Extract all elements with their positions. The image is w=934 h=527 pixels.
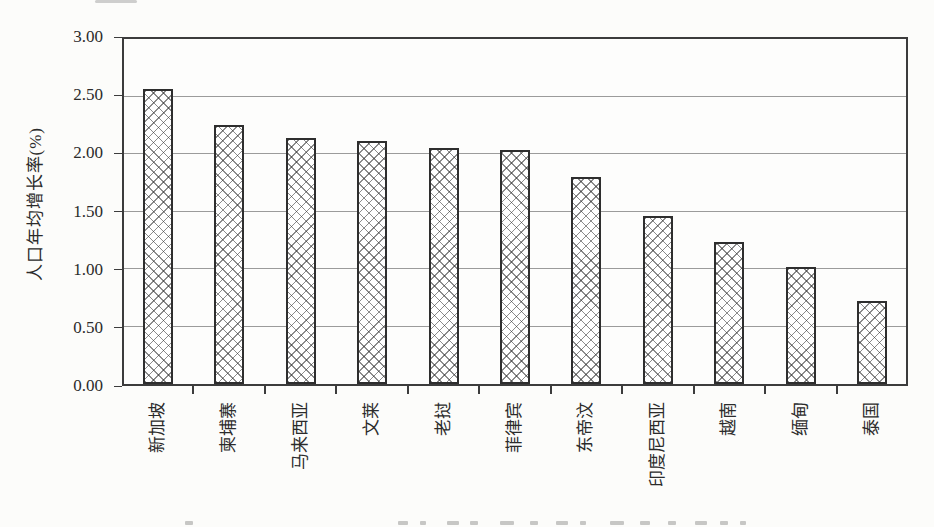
x-tick-mark bbox=[693, 386, 695, 394]
x-category-label-text: 缅甸 bbox=[792, 402, 810, 436]
scan-artifact-top bbox=[95, 0, 137, 3]
caption-dash bbox=[610, 521, 624, 525]
x-category-label: 新加坡 bbox=[149, 402, 200, 420]
x-category-label-text: 新加坡 bbox=[149, 402, 167, 453]
x-tick-mark bbox=[550, 386, 552, 394]
y-tick-label: 2.00 bbox=[43, 143, 103, 163]
bar bbox=[357, 141, 387, 384]
caption-dash bbox=[398, 521, 408, 525]
x-category-label-text: 老挝 bbox=[435, 402, 453, 436]
gridline bbox=[124, 96, 906, 97]
x-tick-mark bbox=[264, 386, 266, 394]
caption-dash bbox=[447, 521, 459, 525]
y-tick-label: 1.00 bbox=[43, 260, 103, 280]
bar bbox=[571, 177, 601, 384]
y-tick-mark bbox=[114, 386, 122, 387]
caption-dash bbox=[556, 521, 568, 525]
y-tick-label: 1.50 bbox=[43, 202, 103, 222]
x-category-label-text: 印度尼西亚 bbox=[649, 402, 667, 487]
caption-dash bbox=[580, 521, 586, 525]
x-tick-mark bbox=[478, 386, 480, 394]
x-category-label-text: 东帝汶 bbox=[577, 402, 595, 453]
bar bbox=[429, 148, 459, 384]
caption-dash bbox=[185, 521, 193, 525]
x-category-label: 越南 bbox=[720, 402, 754, 420]
bar bbox=[643, 216, 673, 384]
bar bbox=[714, 242, 744, 384]
plot-area bbox=[122, 37, 908, 386]
x-category-label: 柬埔寨 bbox=[220, 402, 271, 420]
x-category-label: 泰国 bbox=[863, 402, 897, 420]
x-tick-mark bbox=[621, 386, 623, 394]
caption-dash bbox=[530, 521, 538, 525]
caption-dash bbox=[720, 521, 728, 525]
x-tick-mark bbox=[192, 386, 194, 394]
x-tick-mark bbox=[335, 386, 337, 394]
bar bbox=[143, 89, 173, 384]
caption-dash bbox=[695, 521, 707, 525]
bar bbox=[857, 301, 887, 384]
bar bbox=[786, 267, 816, 384]
x-category-label-text: 马来西亚 bbox=[292, 402, 310, 470]
y-tick-mark bbox=[114, 153, 122, 154]
bar bbox=[214, 125, 244, 384]
bar bbox=[500, 150, 530, 384]
x-category-label-text: 泰国 bbox=[863, 402, 881, 436]
x-category-label: 缅甸 bbox=[792, 402, 826, 420]
y-tick-mark bbox=[114, 95, 122, 96]
x-category-label-text: 越南 bbox=[720, 402, 738, 436]
population-growth-bar-chart: 人口年均增长率(%) 0.000.501.001.502.002.503.00 … bbox=[0, 0, 934, 527]
caption-dash bbox=[420, 521, 426, 525]
x-category-label-text: 柬埔寨 bbox=[220, 402, 238, 453]
x-category-label-text: 文莱 bbox=[363, 402, 381, 436]
x-tick-mark bbox=[836, 386, 838, 394]
y-tick-label: 0.50 bbox=[43, 318, 103, 338]
x-category-label: 老挝 bbox=[435, 402, 469, 420]
caption-dash bbox=[668, 521, 676, 525]
x-tick-mark bbox=[407, 386, 409, 394]
y-tick-label: 0.00 bbox=[43, 376, 103, 396]
x-category-label: 文莱 bbox=[363, 402, 397, 420]
y-tick-label: 2.50 bbox=[43, 85, 103, 105]
y-tick-mark bbox=[114, 37, 122, 38]
x-category-label: 菲律宾 bbox=[506, 402, 557, 420]
caption-dash bbox=[740, 521, 746, 525]
y-tick-mark bbox=[114, 269, 122, 270]
caption-dash bbox=[500, 521, 514, 525]
bar bbox=[286, 138, 316, 384]
caption-dash bbox=[640, 521, 650, 525]
y-tick-label: 3.00 bbox=[43, 27, 103, 47]
y-tick-mark bbox=[114, 327, 122, 328]
y-tick-mark bbox=[114, 211, 122, 212]
x-category-label: 马来西亚 bbox=[292, 402, 360, 420]
x-category-label: 东帝汶 bbox=[577, 402, 628, 420]
x-tick-mark bbox=[764, 386, 766, 394]
x-category-label-text: 菲律宾 bbox=[506, 402, 524, 453]
caption-dash bbox=[470, 521, 478, 525]
